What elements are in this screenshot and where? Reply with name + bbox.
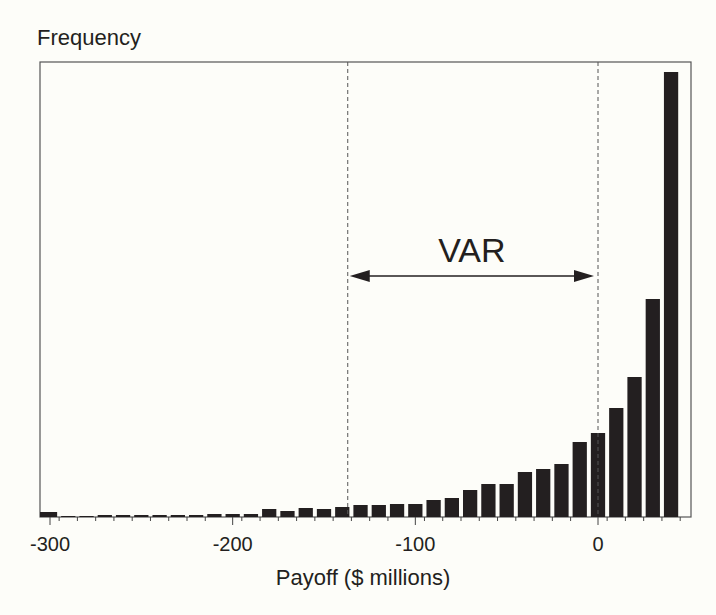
histogram-bar [134,515,148,517]
histogram-bar [609,408,623,517]
x-tick-label: 0 [592,533,603,555]
histogram-bar [426,500,440,517]
x-tick-label: -100 [395,533,435,555]
histogram-bar [299,508,313,517]
histogram-bar [116,515,130,517]
histogram-bar [500,484,514,517]
x-tick-label: -200 [213,533,253,555]
histogram-bar [445,498,459,517]
histogram-bar [244,514,258,517]
histogram-bar [554,464,568,517]
x-tick-label: -300 [30,533,70,555]
histogram-bar [262,509,276,517]
histogram-bar [189,515,203,517]
var-label: VAR [438,231,505,269]
histogram-bar [664,72,678,517]
histogram-bar [518,472,532,517]
histogram-bar [40,512,57,517]
histogram-bar [646,299,660,517]
histogram-bar [61,516,75,517]
histogram-bar [627,377,641,517]
histogram-bar [317,509,331,517]
histogram-bar [280,511,294,517]
x-axis-label: Payoff ($ millions) [0,565,716,591]
histogram-bar [171,515,185,517]
histogram-bar [536,469,550,517]
histogram-bar [573,442,587,517]
histogram-bar [463,490,477,517]
histogram-bar [372,505,386,517]
histogram-bar [226,514,240,517]
histogram-bar [98,515,112,517]
arrow-left-icon [350,270,370,282]
histogram-bar [390,504,404,517]
histogram-bar [353,505,367,517]
histogram-bar [408,504,422,517]
arrow-right-icon [574,270,594,282]
histogram-bar [207,514,221,517]
histogram-chart: -300-200-1000VAR [0,0,716,615]
histogram-bar [79,516,93,517]
histogram-bar [152,515,166,517]
histogram-bar [481,484,495,517]
